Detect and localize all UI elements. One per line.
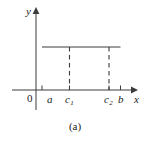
tick-label-b: b — [118, 94, 124, 105]
y-axis-arrowhead — [33, 7, 40, 14]
y-axis-label: y — [26, 6, 31, 17]
tick-label-c2-subscript: 2 — [109, 99, 113, 107]
x-axis-label: x — [134, 94, 139, 105]
tick-label-a: a — [47, 94, 53, 105]
tick-label-c1-subscript: 1 — [70, 99, 74, 107]
figure-container: y x 0 a c1 c2 b (a) — [0, 0, 150, 144]
tick-label-c2: c2 — [104, 94, 113, 107]
tick-label-c1: c1 — [65, 94, 74, 107]
origin-label: 0 — [27, 93, 33, 104]
figure-caption: (a) — [0, 120, 150, 132]
